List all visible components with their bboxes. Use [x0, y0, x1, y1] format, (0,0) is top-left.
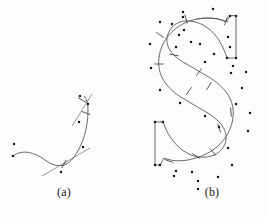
control-point-dot — [182, 11, 185, 14]
panel-a-node-markers — [62, 98, 90, 168]
control-point-dot — [249, 112, 252, 115]
control-point-dot — [197, 180, 200, 183]
panel-a-graphic — [12, 94, 92, 176]
control-point-dot — [175, 46, 178, 49]
control-point-dot — [149, 43, 152, 46]
node-marker-tick — [207, 82, 211, 89]
control-point-dot — [204, 115, 207, 118]
control-point-dot — [183, 29, 186, 32]
control-point-dot — [173, 175, 176, 178]
control-point-dot — [82, 146, 85, 149]
control-point-dot — [217, 176, 220, 179]
control-point-dot — [241, 87, 244, 90]
control-point-dot — [199, 43, 202, 46]
node-marker-tick — [231, 108, 232, 116]
control-point-dot — [235, 57, 238, 60]
control-point-dot — [212, 8, 215, 11]
control-point-dot — [159, 89, 162, 92]
control-point-dot — [159, 164, 162, 167]
control-point-dot — [13, 143, 16, 146]
control-point-dot — [162, 121, 165, 124]
control-point-dot — [247, 130, 250, 133]
control-point-dot — [204, 61, 207, 64]
control-point-dot — [182, 16, 185, 19]
spline-curve — [13, 96, 88, 166]
control-point-dot — [229, 46, 232, 49]
control-point-dot — [227, 36, 230, 39]
panel-b-node-markers — [155, 15, 232, 163]
control-point-dot — [191, 171, 194, 174]
node-marker-tick — [185, 15, 187, 23]
control-point-dot — [171, 23, 174, 26]
control-point-dot — [154, 164, 157, 167]
control-point-dot — [78, 121, 81, 124]
control-point-dot — [232, 65, 235, 68]
control-point-dot — [227, 147, 230, 150]
control-point-dot — [154, 121, 157, 124]
panel-label-b: (b) — [192, 185, 232, 200]
control-point-dot — [226, 57, 229, 60]
control-point-dot — [175, 170, 178, 173]
panel-b-graphic — [149, 8, 252, 191]
control-point-dot — [79, 95, 82, 98]
control-point-dot — [218, 126, 221, 129]
control-point-dot — [230, 72, 233, 75]
panel-b-curves — [155, 16, 236, 165]
control-point-dot — [179, 102, 182, 105]
node-marker-tick — [82, 112, 90, 115]
control-point-dot — [159, 21, 162, 24]
control-point-dot — [60, 171, 63, 174]
node-marker-tick — [157, 33, 164, 38]
node-marker-tick — [78, 98, 85, 102]
control-point-dot — [190, 41, 193, 44]
control-point-dot — [231, 164, 234, 167]
control-point-dot — [87, 103, 90, 106]
tangent-handle-line — [42, 148, 90, 176]
node-marker-tick — [187, 88, 192, 95]
spline-curve — [155, 16, 236, 165]
control-point-dot — [150, 67, 153, 70]
figure-container: (a) (b) — [0, 0, 267, 218]
control-point-dot — [235, 15, 238, 18]
control-point-dot — [229, 15, 232, 18]
tangent-handle-line — [72, 94, 92, 126]
control-point-dot — [245, 71, 248, 74]
panel-label-a: (a) — [44, 185, 84, 200]
panel-a-curves — [13, 96, 88, 166]
panel-a-control-points — [12, 95, 90, 174]
control-point-dot — [213, 53, 216, 56]
control-point-dot — [235, 103, 238, 106]
control-point-dot — [12, 155, 15, 158]
control-point-dot — [178, 34, 181, 37]
